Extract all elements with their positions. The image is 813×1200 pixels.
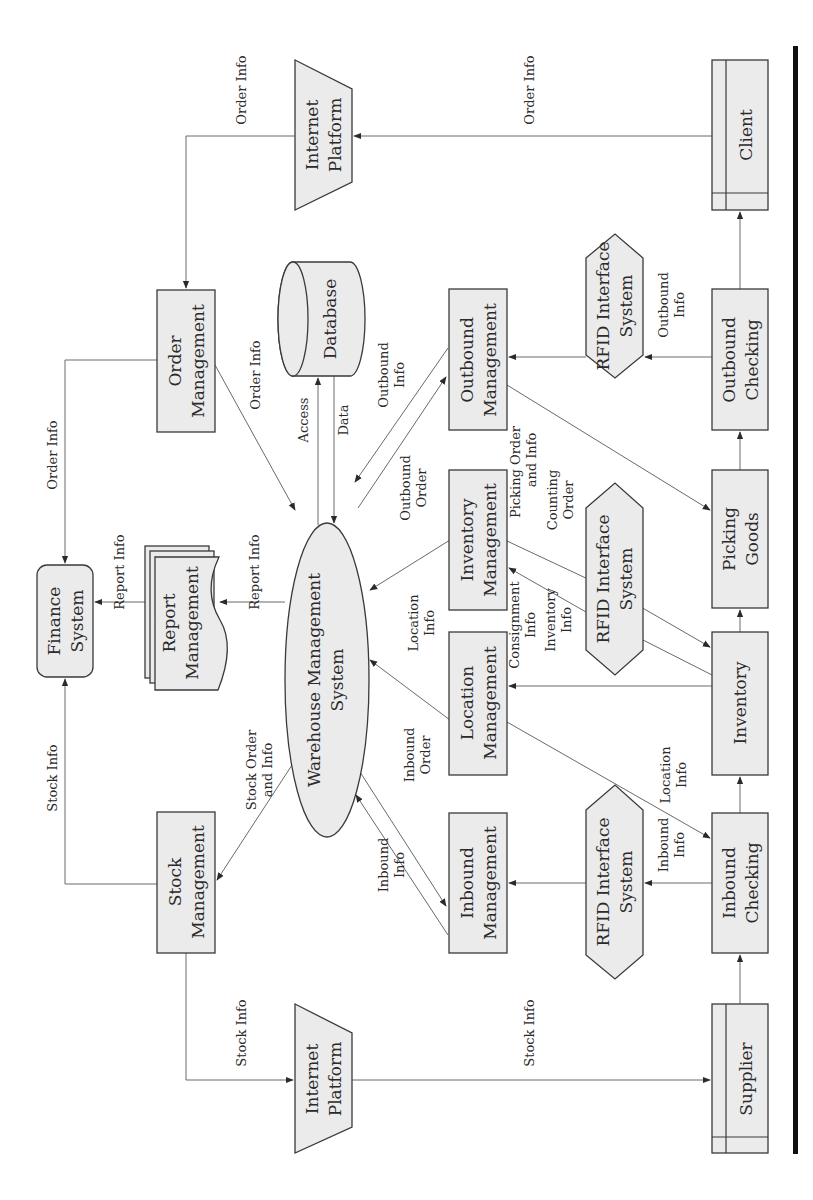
edge-label: Info	[674, 762, 689, 788]
node-label: Inventory	[457, 498, 477, 581]
node-label: System	[616, 851, 636, 914]
divider-bar	[793, 46, 798, 1154]
node-report-management[interactable]: Report Management	[145, 546, 227, 690]
edge-label: and Info	[524, 432, 539, 487]
edge-label: Order	[414, 468, 429, 508]
node-rfid-interface-top[interactable]: RFID Interface System	[586, 234, 643, 378]
edge-inventory-mgmt-to-wms	[370, 540, 450, 590]
node-label: Supplier	[736, 1041, 756, 1115]
edge-stock-to-finance	[65, 679, 157, 884]
node-label: Management	[480, 826, 500, 940]
node-label: System	[616, 548, 636, 611]
node-label: Picking	[719, 507, 739, 571]
node-outbound-checking[interactable]: Outbound Checking	[712, 289, 768, 430]
node-label: Checking	[742, 842, 762, 923]
node-label: Goods	[742, 512, 762, 566]
node-label: RFID Interface	[593, 817, 613, 946]
edge-location-mgmt-to-wms	[370, 660, 450, 720]
node-label: Platform	[325, 1042, 345, 1117]
node-label: Checking	[742, 319, 762, 400]
edge-label: Inbound	[656, 818, 671, 873]
node-rfid-interface-bottom[interactable]: RFID Interface System	[586, 785, 643, 979]
node-internet-platform-top[interactable]: Internet Platform	[295, 60, 352, 210]
edge-label: Consignment	[507, 581, 522, 669]
edge-label: Inventory	[543, 588, 558, 652]
node-inbound-checking[interactable]: Inbound Checking	[712, 813, 768, 953]
edge-label: and Info	[260, 742, 275, 797]
edge-label: Picking Order	[508, 425, 523, 518]
edge-label: Info	[523, 612, 538, 638]
node-label: Warehouse Management	[304, 573, 324, 787]
node-label: Inventory	[730, 661, 750, 744]
edge-label: Inbound	[376, 838, 391, 893]
node-label: Report	[159, 593, 179, 652]
node-label: Internet	[302, 100, 322, 171]
node-order-management[interactable]: Order Management	[157, 290, 215, 432]
edge-label: Outbound	[376, 342, 391, 407]
edge-label: Report Info	[112, 534, 127, 610]
edge-label: Info	[672, 292, 687, 318]
node-label: Management	[480, 483, 500, 597]
node-location-management[interactable]: Location Management	[449, 632, 507, 775]
node-picking-goods[interactable]: Picking Goods	[712, 470, 768, 608]
edge-label: Inbound	[402, 728, 417, 783]
edge-label: Order Info	[522, 55, 537, 125]
node-label: Management	[480, 303, 500, 417]
node-label: Management	[188, 304, 208, 418]
edge-label: Order Info	[248, 340, 263, 410]
edge-label: Outbound	[398, 455, 413, 520]
node-label: Internet	[302, 1044, 322, 1115]
node-outbound-management[interactable]: Outbound Management	[449, 289, 507, 430]
node-label: Platform	[325, 98, 345, 173]
edge-label: Location	[406, 594, 421, 652]
diagram-canvas: Internet Platform Client Order Managemen…	[0, 0, 813, 1200]
node-inventory-management[interactable]: Inventory Management	[449, 470, 507, 610]
node-label: Stock	[165, 857, 185, 906]
edge-order-to-finance	[65, 360, 157, 563]
edge-label: Counting	[545, 470, 560, 531]
node-label: RFID Interface	[593, 241, 613, 370]
node-database[interactable]: Database	[278, 262, 365, 376]
edge-label: Access	[296, 398, 311, 444]
edge-label: Info	[559, 607, 574, 633]
node-label: Management	[182, 566, 202, 680]
node-supplier[interactable]: Supplier	[712, 1004, 768, 1153]
node-inbound-management[interactable]: Inbound Management	[449, 813, 507, 953]
edge-label: Location	[658, 746, 673, 804]
edge-label: Stock Info	[522, 999, 537, 1067]
node-label: Order	[165, 335, 185, 387]
node-label: Management	[188, 825, 208, 939]
node-label: RFID Interface	[593, 514, 613, 643]
edge-label: Order Info	[234, 55, 249, 125]
node-label: Outbound	[719, 317, 739, 403]
edge-label: Report Info	[247, 534, 262, 610]
node-label: System	[616, 275, 636, 338]
edge-label: Outbound	[656, 272, 671, 337]
node-label: Database	[320, 279, 340, 360]
edge-label: Info	[392, 362, 407, 388]
edge-label: Order	[561, 480, 576, 520]
node-label: System	[67, 590, 87, 653]
edge-label: Data	[336, 404, 351, 435]
edge-label: Info	[422, 610, 437, 636]
node-label: Inbound	[719, 847, 739, 919]
node-rfid-interface-mid[interactable]: RFID Interface System	[586, 483, 643, 675]
edge-label: Order	[418, 735, 433, 775]
edge-label: Stock Info	[45, 744, 60, 812]
node-client[interactable]: Client	[712, 60, 768, 210]
node-inventory[interactable]: Inventory	[712, 632, 768, 775]
edge-platform-to-order	[186, 136, 295, 288]
node-label: System	[327, 649, 347, 712]
edge-label: Info	[392, 852, 407, 878]
node-label: Finance	[44, 587, 64, 656]
node-internet-platform-bottom[interactable]: Internet Platform	[295, 1004, 352, 1153]
node-finance-system[interactable]: Finance System	[37, 565, 93, 677]
node-label: Outbound	[457, 317, 477, 403]
edge-label: Stock Info	[234, 999, 249, 1067]
node-stock-management[interactable]: Stock Management	[157, 812, 215, 953]
edge-label: Stock Order	[244, 729, 259, 810]
node-warehouse-management-system[interactable]: Warehouse Management System	[285, 523, 369, 837]
node-label: Location	[457, 666, 477, 741]
edge-inbound-order	[360, 772, 446, 906]
node-label: Inbound	[457, 847, 477, 919]
